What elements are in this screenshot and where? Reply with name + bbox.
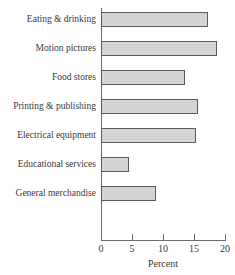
bar-chart: Eating & drinkingMotion picturesFood sto… (0, 0, 235, 275)
bar-row: Electrical equipment (0, 128, 235, 143)
x-tick-label: 0 (86, 243, 116, 255)
bar-category-label: Motion pictures (0, 41, 96, 56)
x-tick-label: 20 (210, 243, 235, 255)
bar (101, 70, 185, 85)
x-tick-label: 5 (117, 243, 147, 255)
x-tick-mark (132, 234, 133, 241)
bar-row: Eating & drinking (0, 12, 235, 27)
bar-category-label: General merchandise (0, 186, 96, 201)
x-axis-title: Percent (101, 258, 225, 270)
plot-area: Eating & drinkingMotion picturesFood sto… (0, 0, 235, 275)
bar-row: Food stores (0, 70, 235, 85)
bar-category-label: Educational services (0, 157, 96, 172)
bar (101, 128, 196, 143)
bar-row: Motion pictures (0, 41, 235, 56)
x-tick-mark (194, 234, 195, 241)
bar (101, 12, 208, 27)
bar-category-label: Printing & publishing (0, 99, 96, 114)
bar (101, 41, 217, 56)
bar (101, 157, 129, 172)
bar (101, 186, 156, 201)
bar-category-label: Eating & drinking (0, 12, 96, 27)
x-tick-label: 15 (179, 243, 209, 255)
bar-category-label: Electrical equipment (0, 128, 96, 143)
x-tick-mark (163, 234, 164, 241)
bar-row: Educational services (0, 157, 235, 172)
x-tick-mark (101, 234, 102, 241)
bar-row: General merchandise (0, 186, 235, 201)
bar (101, 99, 198, 114)
bar-row: Printing & publishing (0, 99, 235, 114)
x-tick-mark (225, 234, 226, 241)
bar-category-label: Food stores (0, 70, 96, 85)
x-tick-label: 10 (148, 243, 178, 255)
